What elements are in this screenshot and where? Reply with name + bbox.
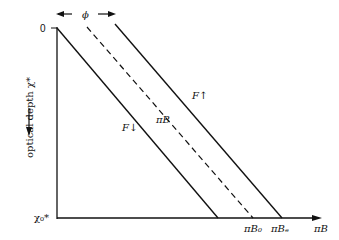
- f-up-label: F↑: [191, 90, 207, 101]
- line-f-down: [57, 28, 218, 218]
- x-axis-arrow-icon: [312, 215, 322, 221]
- line-f-up: [115, 24, 282, 218]
- y-tick-bottom-label: χ₀*: [34, 212, 49, 223]
- x-tick-label-be: πBₑ: [270, 223, 289, 234]
- phi-label: ϕ: [82, 9, 89, 20]
- x-axis-label: πB: [313, 223, 328, 234]
- phi-arrow: ϕ: [56, 9, 116, 20]
- y-tick-zero-label: 0: [40, 23, 46, 34]
- x-tick-label-b0: πB₀: [243, 223, 262, 234]
- f-down-label: F↓: [121, 122, 137, 133]
- radiative-transfer-diagram: ϕ 0 χ₀* optical depth χ* πB πB₀ πBₑ F↓ π…: [0, 0, 339, 240]
- line-pi-b-dashed: [87, 27, 253, 218]
- pi-b-label: πB: [155, 114, 170, 125]
